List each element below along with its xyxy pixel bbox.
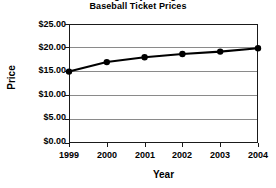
x-tick-mark-2004 [258,143,259,147]
x-axis-title: Year [69,169,258,180]
data-point-2003 [217,48,223,54]
chart-container: Average Major League Baseball Ticket Pri… [0,0,276,188]
x-tick-label-1999: 1999 [49,150,89,160]
x-tick-mark-2000 [107,143,108,147]
y-tick-label-5: $5.00 [2,113,66,122]
data-point-2004 [255,45,261,51]
x-tick-label-2002: 2002 [162,150,202,160]
x-tick-mark-2001 [145,143,146,147]
x-tick-mark-2002 [182,143,183,147]
x-tick-mark-1999 [69,143,70,147]
x-tick-label-2000: 2000 [87,150,127,160]
x-tick-mark-2003 [220,143,221,147]
series-polyline [69,48,258,71]
x-tick-label-2001: 2001 [125,150,165,160]
data-point-2001 [141,54,147,60]
y-tick-label-25: $25.00 [2,20,66,29]
x-tick-label-2004: 2004 [238,150,276,160]
x-tick-label-2003: 2003 [200,150,240,160]
data-point-2002 [179,51,185,57]
y-tick-label-0: $0.00 [2,137,66,146]
y-axis-title: Price [6,48,17,108]
data-point-2000 [104,59,110,65]
data-point-1999 [66,68,72,74]
data-series-line [69,24,258,143]
